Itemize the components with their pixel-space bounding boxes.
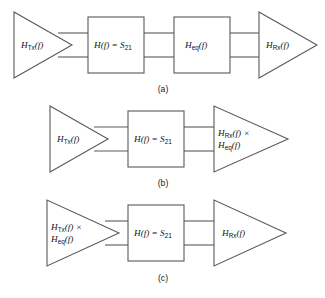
caption-b: (b) (158, 178, 169, 188)
tx-amplifier-with-equalizer-c (47, 200, 119, 266)
figure-container: HTx(f) H(f) = S21 Heq(f) HRx(f) (a) (0, 0, 325, 298)
caption-a: (a) (158, 84, 169, 94)
tx-amplifier-c-label-line1: HTx(f) × (50, 222, 82, 233)
diagram-a: HTx(f) H(f) = S21 Heq(f) HRx(f) (a) (14, 12, 317, 94)
diagram-c: HTx(f) × Heq(f) H(f) = S21 HRx(f) (c) (47, 200, 286, 283)
caption-c: (c) (158, 273, 168, 283)
rx-amplifier-with-equalizer-b (214, 106, 288, 172)
rx-amplifier-b-label-line1: HRx(f) × (217, 128, 250, 139)
diagram-b: HTx(f) H(f) = S21 HRx(f) × Heq(f) (b) (50, 106, 288, 188)
